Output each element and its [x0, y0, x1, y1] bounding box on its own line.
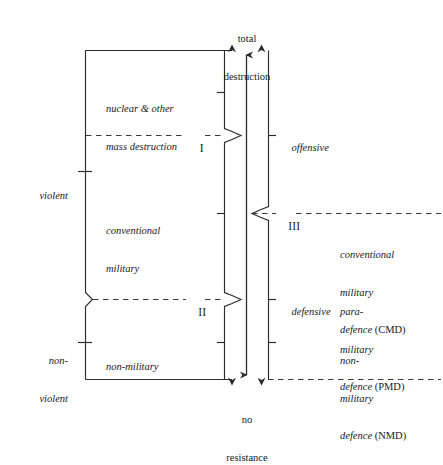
band-nmd-abbrev: (NMD): [372, 430, 406, 441]
band-nmd-defence-word: defence: [340, 430, 372, 441]
band-conventional-military: conventional military: [106, 200, 222, 300]
band-non-military-line1: non-military: [106, 361, 222, 374]
threshold-numeral-III-text: III: [288, 220, 300, 232]
label-non-violent: non- violent: [4, 330, 68, 430]
label-offensive: offensive: [281, 129, 351, 167]
band-cmd-line1: conventional: [340, 249, 442, 262]
threshold-numeral-III: III: [276, 207, 296, 245]
band-nmd-line2: military: [340, 393, 442, 406]
threshold-numeral-II-text: II: [198, 306, 206, 318]
band-nmd-line3: defence (NMD): [340, 430, 442, 443]
bottom-frame-arrowheads: [228, 378, 266, 386]
label-total-destruction-line1: total: [200, 33, 294, 46]
band-conventional-line1: conventional: [106, 225, 222, 238]
label-non-violent-line1: non-: [4, 355, 68, 368]
band-pmd-line1: para-: [340, 306, 442, 319]
label-no-resistance-line2: resistance: [200, 452, 294, 465]
label-non-violent-line2: violent: [4, 393, 68, 406]
frame-left-edge: [86, 51, 93, 380]
band-non-military: non-military: [106, 336, 222, 399]
label-defensive-text: defensive: [292, 306, 331, 317]
threshold-numeral-I: I: [186, 129, 205, 167]
band-nmd-line1: non-: [340, 355, 442, 368]
threshold-numeral-II: II: [186, 293, 205, 331]
label-offensive-text: offensive: [292, 142, 329, 153]
label-no-resistance-line1: no: [200, 414, 294, 427]
arrowhead-bottom-right-corner: [258, 378, 266, 386]
arrowhead-bottom-left-corner: [228, 378, 236, 386]
band-nuclear-line1: nuclear & other: [106, 103, 222, 116]
label-no-resistance: no resistance: [200, 389, 294, 465]
band-nmd: non- military defence (NMD): [340, 330, 442, 465]
threshold-numeral-I-text: I: [200, 142, 204, 154]
band-conventional-line2: military: [106, 263, 222, 276]
label-violent: violent: [4, 165, 68, 228]
label-violent-line1: violent: [4, 190, 68, 203]
